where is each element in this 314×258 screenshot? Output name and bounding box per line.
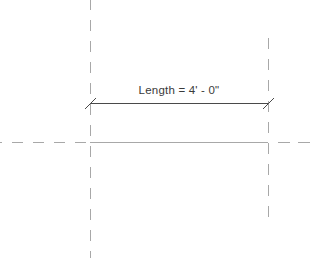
dimension-label[interactable]: Length = 4' - 0"	[90, 84, 268, 96]
drawing-canvas[interactable]: Length = 4' - 0"	[0, 0, 314, 258]
drawing-svg	[0, 0, 314, 258]
